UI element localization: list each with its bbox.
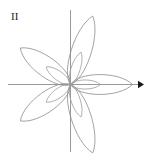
rose-petal xyxy=(69,52,82,84)
rose-petal xyxy=(20,48,70,86)
rose-petal xyxy=(67,16,95,84)
figure-container: II xyxy=(0,0,148,154)
x-axis-arrow-icon xyxy=(138,81,144,88)
rose-petal xyxy=(67,85,95,153)
rose-petal xyxy=(20,84,70,122)
polar-rose-plot xyxy=(0,0,148,154)
rose-petal xyxy=(46,67,70,85)
rose-petal xyxy=(69,85,82,117)
rose-petal xyxy=(46,84,70,102)
